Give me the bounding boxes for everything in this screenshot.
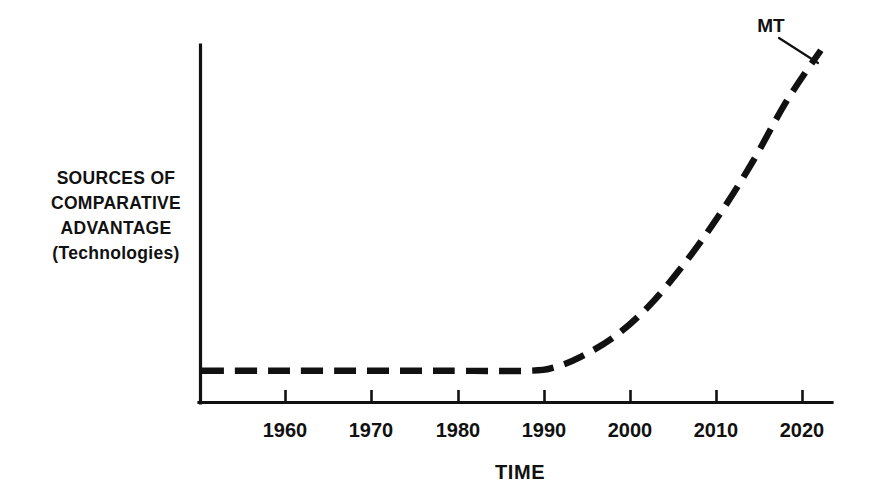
tick-label-2000: 2000: [608, 419, 653, 441]
mt-leader-line: [779, 38, 818, 63]
y-axis-title: SOURCES OF COMPARATIVE ADVANTAGE (Techno…: [34, 166, 198, 266]
tick-label-1980: 1980: [436, 419, 481, 441]
exponential-growth-chart: SOURCES OF COMPARATIVE ADVANTAGE (Techno…: [0, 0, 882, 502]
x-axis-ticks: [286, 390, 803, 402]
tick-label-1990: 1990: [522, 419, 567, 441]
y-axis-title-line-2: COMPARATIVE: [34, 191, 198, 216]
tick-label-1960: 1960: [263, 419, 308, 441]
mt-growth-curve: [202, 50, 821, 371]
mt-annotation-label: MT: [757, 15, 785, 36]
tick-label-1970: 1970: [349, 419, 394, 441]
tick-label-2010: 2010: [694, 419, 739, 441]
y-axis-title-line-1: SOURCES OF: [34, 166, 198, 191]
y-axis-title-line-4: (Technologies): [34, 241, 198, 266]
x-axis-title: TIME: [495, 461, 545, 483]
x-axis-tick-labels: 1960 1970 1980 1990 2000 2010 2020: [263, 419, 825, 441]
tick-label-2020: 2020: [780, 419, 825, 441]
y-axis-title-line-3: ADVANTAGE: [34, 216, 198, 241]
